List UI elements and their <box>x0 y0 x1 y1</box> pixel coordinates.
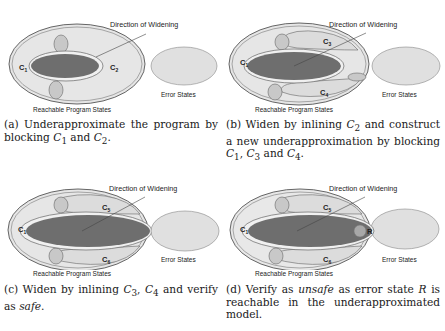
reachable-states-label: Reachable Program States <box>33 106 111 113</box>
error-state-r <box>354 225 366 237</box>
reachable-states-label: Reachable Program States <box>33 270 111 277</box>
blocked-region-bottom <box>49 81 63 99</box>
underapproximation-ellipse <box>248 215 372 247</box>
direction-label: Direction of Widening <box>109 184 177 193</box>
diagram-d: Direction of Widening C1 C5 C6 R Error S… <box>222 170 445 270</box>
error-states-label: Error States <box>382 256 417 263</box>
caption-c: (c) Widen by inlining C3, C4 and verify … <box>4 283 218 312</box>
underapproximation-ellipse <box>31 54 99 78</box>
diagram-c: Direction of Widening C1 C5 C6 Error Sta… <box>0 170 222 270</box>
caption-a: (a) Underapproximate the program by bloc… <box>4 118 218 147</box>
panel-c: Direction of Widening C1 C5 C6 Error Sta… <box>0 170 222 331</box>
error-states-ellipse <box>151 211 219 251</box>
diagram-a: Direction of Widening C1 C2 Error States <box>0 0 222 110</box>
direction-label: Direction of Widening <box>329 184 397 193</box>
blocked-region-bottom <box>268 84 282 100</box>
caption-d: (d) Verify as unsafe as error state R is… <box>226 283 440 321</box>
panel-d: Direction of Widening C1 C5 C6 R Error S… <box>222 170 444 331</box>
blocked-region-top <box>54 35 68 53</box>
blocked-region-top <box>275 34 289 50</box>
direction-label: Direction of Widening <box>329 20 397 29</box>
underapproximation-ellipse <box>26 215 150 247</box>
error-states-label: Error States <box>382 91 417 98</box>
error-states-label: Error States <box>161 91 196 98</box>
panel-b: Direction of Widening C1 C3 C4 Error Sta… <box>222 0 444 165</box>
direction-label: Direction of Widening <box>110 20 178 29</box>
diagram-b: Direction of Widening C1 C3 C4 Error Sta… <box>222 0 445 110</box>
label-r: R <box>367 227 373 236</box>
blocked-region-top <box>54 197 68 213</box>
blocked-region-bottom <box>269 248 283 264</box>
reachable-states-label: Reachable Program States <box>255 270 333 277</box>
error-states-ellipse <box>371 209 439 249</box>
blocked-region-top <box>275 197 289 213</box>
error-states-ellipse <box>372 47 440 85</box>
caption-b: (b) Widen by inlining C2 and construct a… <box>226 118 440 164</box>
panel-a: Direction of Widening C1 C2 Error States… <box>0 0 222 165</box>
error-states-ellipse <box>151 47 217 85</box>
blocked-region-bottom <box>49 248 63 264</box>
reachable-states-label: Reachable Program States <box>255 106 333 113</box>
error-states-label: Error States <box>161 256 196 263</box>
